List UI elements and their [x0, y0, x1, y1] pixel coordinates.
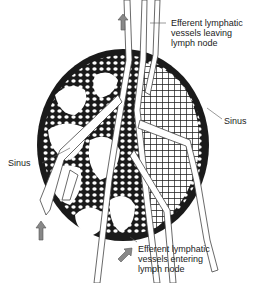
label-line: Efferent lymphatic — [171, 18, 243, 28]
label-line: vessels entering — [138, 254, 210, 264]
arrow-up-icon-bottom-left — [36, 221, 46, 240]
label-line: lymph node — [171, 38, 243, 48]
label-efferent-leaving: Efferent lymphatic vessels leaving lymph… — [171, 18, 243, 48]
label-sinus-right: Sinus — [224, 116, 247, 126]
label-line: vessels leaving — [171, 28, 243, 38]
label-efferent-entering: Efferent lymphatic vessels entering lymp… — [138, 244, 210, 274]
label-sinus-left: Sinus — [8, 158, 31, 168]
label-line: Efferent lymphatic — [138, 244, 210, 254]
label-line: lymph node — [138, 264, 210, 274]
arrow-up-right-icon-bottom — [118, 248, 132, 262]
lymph-node-diagram: Efferent lymphatic vessels leaving lymph… — [0, 0, 259, 283]
